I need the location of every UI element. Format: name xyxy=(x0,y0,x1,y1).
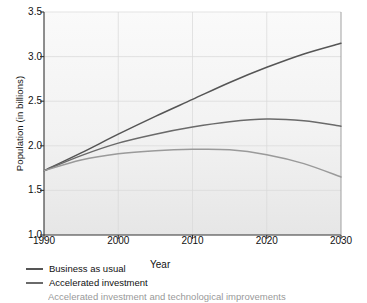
x-axis-tick-label: 2020 xyxy=(256,236,278,246)
legend-item-label: Accelerated investment xyxy=(49,278,148,288)
plot-area xyxy=(0,0,367,303)
x-axis-tick-label: 2010 xyxy=(181,236,203,246)
legend-item-business-as-usual: Business as usual xyxy=(26,262,367,276)
chart-figure: Population (in billions) 1.01.52.02.53.0… xyxy=(0,0,367,303)
x-axis-tick-label: 1990 xyxy=(33,236,55,246)
legend-item-label: Business as usual xyxy=(49,264,126,274)
chart-legend: Business as usual Accelerated investment… xyxy=(26,262,367,303)
legend-swatch-icon xyxy=(26,268,43,270)
legend-item-accelerated-investment: Accelerated investment xyxy=(26,276,367,290)
x-axis-tick-label: 2000 xyxy=(107,236,129,246)
legend-item-accelerated-investment-and-technological-improvements: Accelerated investment and technological… xyxy=(26,290,367,303)
x-axis-tick-label: 2030 xyxy=(330,236,352,246)
legend-swatch-icon xyxy=(26,282,43,284)
x-axis-tick-labels: 19902000201020202030 xyxy=(0,236,367,250)
legend-item-label: Accelerated investment and technological… xyxy=(48,292,286,302)
